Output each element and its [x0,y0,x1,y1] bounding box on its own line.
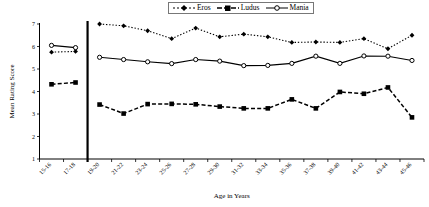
datapoint-mania-29-30 [218,59,222,63]
x-axis: 15-1617-1819-2021-2223-2425-2627-2829-30… [38,21,424,176]
datapoint-mania-31-32 [242,64,246,68]
datapoint-mania-21-22 [122,57,126,61]
datapoint-ludus-29-30 [217,104,222,109]
x-tick-label: 27-28 [182,161,196,175]
legend-item-mania: Mania [266,4,309,12]
datapoint-ludus-37-38 [314,106,319,111]
y-tick-label: 7 [32,21,35,27]
chart-plot: 1234567 15-1617-1819-2021-2223-2425-2627… [0,0,429,207]
chart-container: Eros Ludus Mania 1234567 15-1617-1819-20… [0,0,429,207]
x-tick-label: 33-34 [254,161,268,175]
datapoint-eros-45-46 [410,33,415,38]
datapoint-eros-29-30 [217,34,222,39]
chart-legend: Eros Ludus Mania [168,2,314,14]
y-tick-label: 3 [32,111,35,117]
datapoint-ludus-35-36 [290,97,295,102]
datapoint-eros-27-28 [193,26,198,31]
datapoint-mania-41-42 [362,54,366,58]
datapoint-ludus-39-40 [338,90,343,95]
x-tick-label: 37-38 [302,161,316,175]
y-tick-label: 1 [32,156,35,162]
datapoint-ludus-45-46 [410,115,415,120]
datapoint-ludus-31-32 [241,106,246,111]
datapoint-ludus-33-34 [265,106,270,111]
legend-item-ludus: Ludus [217,4,260,12]
y-axis-title: Mean Rating Score [8,64,16,118]
datapoint-eros-19-20 [97,22,102,27]
datapoint-mania-23-24 [146,60,150,64]
x-tick-label: 15-16 [38,161,52,175]
series-line-ludus [52,83,76,85]
datapoint-mania-15-16 [49,43,53,47]
datapoint-ludus-21-22 [121,111,126,116]
datapoint-eros-31-32 [241,32,246,37]
y-tick-label: 6 [32,44,35,50]
y-tick-label: 2 [32,134,35,140]
y-tick-label: 5 [32,66,35,72]
x-tick-label: 39-40 [326,161,340,175]
datapoint-eros-43-44 [386,46,391,51]
datapoint-ludus-25-26 [169,102,174,107]
chart-labels-group: Age in YearsMean Rating Score [8,64,250,200]
datapoint-eros-23-24 [145,28,150,33]
datapoint-eros-41-42 [362,36,367,41]
legend-label-mania: Mania [290,4,309,12]
x-tick-label: 17-18 [62,161,76,175]
datapoint-mania-25-26 [170,62,174,66]
datapoint-ludus-15-16 [49,82,54,87]
x-tick-label: 43-44 [375,161,389,175]
datapoint-mania-33-34 [266,63,270,67]
x-tick-label: 41-42 [350,161,364,175]
datapoint-eros-37-38 [313,40,318,45]
x-tick-label: 35-36 [278,161,292,175]
datapoint-ludus-19-20 [97,102,102,107]
datapoint-ludus-23-24 [145,102,150,107]
datapoint-mania-45-46 [410,58,414,62]
datapoint-mania-39-40 [338,61,342,65]
chart-series-group [49,22,414,120]
legend-item-eros: Eros [173,4,211,12]
x-tick-label: 29-30 [206,161,220,175]
datapoint-ludus-17-18 [73,80,78,85]
y-axis: 1234567 [32,21,40,162]
datapoint-eros-21-22 [121,23,126,28]
datapoint-mania-43-44 [386,54,390,58]
series-line-eros [52,51,76,52]
y-tick-label: 4 [32,89,35,95]
x-tick-label: 45-46 [399,161,413,175]
series-line-eros [100,24,412,49]
legend-marker-ludus-icon [217,4,239,12]
x-tick-label: 21-22 [110,161,124,175]
x-tick-label: 19-20 [86,161,100,175]
series-line-mania [52,45,76,47]
datapoint-mania-37-38 [314,54,318,58]
datapoint-eros-35-36 [289,40,294,45]
legend-label-eros: Eros [197,4,211,12]
legend-marker-mania-icon [266,4,288,12]
datapoint-eros-15-16 [49,50,54,55]
x-tick-label: 23-24 [134,161,148,175]
datapoint-mania-27-28 [194,57,198,61]
x-tick-label: 31-32 [230,161,244,175]
x-tick-label: 25-26 [158,161,172,175]
datapoint-ludus-43-44 [386,85,391,90]
datapoint-eros-39-40 [337,40,342,45]
legend-marker-eros-icon [173,4,195,12]
datapoint-eros-25-26 [169,36,174,41]
datapoint-mania-17-18 [73,46,77,50]
datapoint-mania-35-36 [290,61,294,65]
datapoint-eros-33-34 [265,34,270,39]
datapoint-mania-19-20 [97,55,101,59]
datapoint-ludus-27-28 [193,102,198,107]
legend-label-ludus: Ludus [241,4,260,12]
datapoint-ludus-41-42 [362,91,367,96]
x-axis-title: Age in Years [214,192,250,200]
